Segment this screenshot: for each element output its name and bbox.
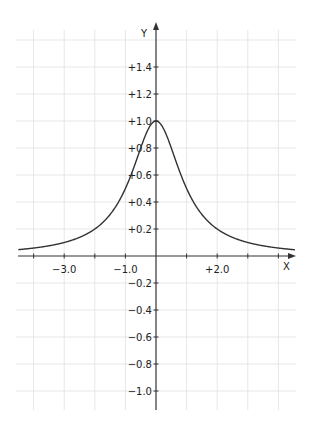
x-axis-label: X (283, 261, 290, 272)
y-tick-label: −0.2 (128, 278, 152, 289)
x-tick-label: +2.0 (205, 264, 229, 275)
tick-labels: −3.0−1.0+2.0+1.4+1.2+1.0+0.8+0.6+0.4+0.2… (52, 62, 229, 397)
y-axis-arrow-icon (153, 22, 159, 30)
x-tick-label: −3.0 (52, 264, 76, 275)
y-tick-label: +1.0 (128, 116, 152, 127)
y-axis-label: Y (140, 28, 148, 39)
function-curve (18, 121, 295, 250)
y-tick-label: +0.4 (128, 197, 152, 208)
y-tick-label: −1.0 (128, 386, 152, 397)
x-axis-arrow-icon (288, 253, 296, 259)
x-tick-label: −1.0 (113, 264, 137, 275)
function-plot: −3.0−1.0+2.0+1.4+1.2+1.0+0.8+0.6+0.4+0.2… (0, 0, 317, 432)
y-tick-label: −0.8 (128, 359, 152, 370)
axes (18, 22, 296, 410)
y-tick-label: −0.4 (128, 305, 152, 316)
y-tick-label: +1.2 (128, 89, 152, 100)
y-tick-label: +0.2 (128, 224, 152, 235)
y-tick-label: +1.4 (128, 62, 152, 73)
y-tick-label: −0.6 (128, 332, 152, 343)
